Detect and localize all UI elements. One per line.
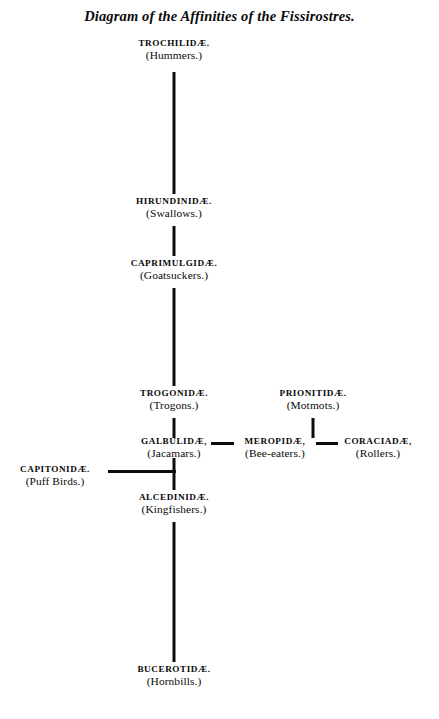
node-galbulidae-family: GALBULIDÆ,	[141, 436, 207, 446]
node-trogonidae: TROGONIDÆ. (Trogons.)	[140, 388, 208, 412]
node-bucerotidae-family: BUCEROTIDÆ.	[137, 664, 210, 674]
node-meropidae-family: MEROPIDÆ,	[245, 436, 306, 446]
node-meropidae-common: (Bee-eaters.)	[245, 447, 306, 460]
node-trochilidae: TROCHILIDÆ. (Hummers.)	[138, 38, 209, 62]
connector-galbulidae-meropidae	[211, 442, 234, 445]
node-hirundinidae: HIRUNDINIDÆ. (Swallows.)	[136, 196, 212, 220]
node-coraciadae: CORACIADÆ, (Rollers.)	[344, 436, 412, 460]
node-hirundinidae-family: HIRUNDINIDÆ.	[136, 196, 212, 206]
node-capitonidae-common: (Puff Birds.)	[20, 475, 90, 488]
node-trochilidae-common: (Hummers.)	[138, 49, 209, 62]
node-alcedinidae-family: ALCEDINIDÆ.	[139, 492, 209, 502]
diagram-title: Diagram of the Affinities of the Fissiro…	[0, 8, 439, 25]
page-bottom-margin	[0, 705, 439, 719]
connector-prionitidae-coraciadae	[312, 418, 315, 438]
connector-trochilidae-hirundinidae	[173, 72, 176, 194]
node-hirundinidae-common: (Swallows.)	[136, 207, 212, 220]
affinities-diagram: Diagram of the Affinities of the Fissiro…	[0, 0, 439, 719]
connector-hirundinidae-caprimulgidae	[173, 226, 176, 256]
node-bucerotidae: BUCEROTIDÆ. (Hornbills.)	[137, 664, 210, 688]
node-alcedinidae-common: (Kingfishers.)	[139, 503, 209, 516]
node-alcedinidae: ALCEDINIDÆ. (Kingfishers.)	[139, 492, 209, 516]
node-trochilidae-family: TROCHILIDÆ.	[138, 38, 209, 48]
node-caprimulgidae-family: CAPRIMULGIDÆ.	[131, 258, 218, 268]
node-caprimulgidae-common: (Goatsuckers.)	[131, 269, 218, 282]
node-prionitidae-family: PRIONITIDÆ.	[279, 388, 346, 398]
node-prionitidae-common: (Motmots.)	[279, 399, 346, 412]
node-trogonidae-common: (Trogons.)	[140, 399, 208, 412]
connector-meropidae-coraciadae	[316, 442, 338, 445]
node-coraciadae-family: CORACIADÆ,	[344, 436, 412, 446]
node-coraciadae-common: (Rollers.)	[344, 447, 412, 460]
connector-trogonidae-galbulidae	[173, 418, 176, 438]
node-trogonidae-family: TROGONIDÆ.	[140, 388, 208, 398]
node-bucerotidae-common: (Hornbills.)	[137, 675, 210, 688]
node-prionitidae: PRIONITIDÆ. (Motmots.)	[279, 388, 346, 412]
node-meropidae: MEROPIDÆ, (Bee-eaters.)	[245, 436, 306, 460]
connector-alcedinidae-bucerotidae	[173, 522, 176, 662]
node-capitonidae-family: CAPITONIDÆ.	[20, 464, 90, 474]
connector-capitonidae-trunk	[108, 470, 176, 473]
node-caprimulgidae: CAPRIMULGIDÆ. (Goatsuckers.)	[131, 258, 218, 282]
connector-caprimulgidae-trogonidae	[173, 288, 176, 386]
node-galbulidae: GALBULIDÆ, (Jacamars.)	[141, 436, 207, 460]
node-galbulidae-common: (Jacamars.)	[141, 447, 207, 460]
connector-galbulidae-alcedinidae	[173, 458, 176, 490]
node-capitonidae: CAPITONIDÆ. (Puff Birds.)	[20, 464, 90, 488]
